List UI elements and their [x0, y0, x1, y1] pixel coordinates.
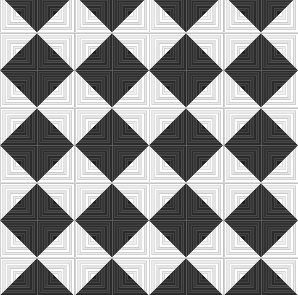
log-cabin-unit [0, 145, 37, 183]
quilt-block [224, 145, 261, 183]
log-cabin-unit [75, 70, 112, 108]
log-cabin-unit [149, 108, 186, 146]
quilt-block [37, 145, 74, 183]
log-cabin-unit [149, 183, 186, 221]
log-cabin-unit [75, 0, 112, 33]
quilt-block [261, 183, 298, 221]
log-cabin-unit [112, 258, 149, 295]
quilt-block [0, 258, 37, 295]
quilt-block [0, 145, 37, 183]
quilt-block [75, 258, 112, 295]
log-cabin-unit [112, 33, 149, 71]
quilt-block [261, 0, 298, 33]
log-cabin-unit [0, 0, 37, 33]
log-cabin-unit [186, 258, 223, 295]
log-cabin-unit [261, 145, 298, 183]
log-cabin-unit [0, 108, 37, 146]
quilt-block [37, 0, 74, 33]
quilt-block [75, 183, 112, 221]
log-cabin-unit [224, 108, 261, 146]
quilt-block [37, 183, 74, 221]
log-cabin-unit [186, 220, 223, 258]
quilt-block [112, 183, 149, 221]
quilt-block [112, 145, 149, 183]
quilt-block [224, 108, 261, 146]
log-cabin-unit [186, 183, 223, 221]
log-cabin-unit [186, 70, 223, 108]
log-cabin-unit [112, 108, 149, 146]
quilt-block [186, 220, 223, 258]
quilt-block [75, 33, 112, 71]
quilt-block [149, 33, 186, 71]
log-cabin-unit [37, 108, 74, 146]
quilt-block [261, 70, 298, 108]
quilt-block [186, 183, 223, 221]
log-cabin-unit [37, 183, 74, 221]
quilt-block [37, 70, 74, 108]
log-cabin-unit [224, 145, 261, 183]
log-cabin-unit [261, 220, 298, 258]
quilt-block [75, 108, 112, 146]
quilt-block [0, 70, 37, 108]
log-cabin-unit [261, 108, 298, 146]
log-cabin-unit [261, 33, 298, 71]
quilt-block [149, 258, 186, 295]
quilt-block [112, 33, 149, 71]
quilt-block [224, 258, 261, 295]
quilt-block [37, 220, 74, 258]
log-cabin-unit [224, 220, 261, 258]
quilt-block [37, 33, 74, 71]
quilt-block [112, 108, 149, 146]
quilt-block [0, 220, 37, 258]
quilt-block [149, 145, 186, 183]
quilt-block [261, 145, 298, 183]
quilt-block [186, 33, 223, 71]
log-cabin-unit [112, 220, 149, 258]
log-cabin-unit [224, 70, 261, 108]
quilt-block [224, 0, 261, 33]
quilt-block [75, 70, 112, 108]
log-cabin-unit [224, 0, 261, 33]
log-cabin-unit [37, 70, 74, 108]
quilt-block [112, 258, 149, 295]
log-cabin-unit [149, 258, 186, 295]
quilt-block [224, 70, 261, 108]
log-cabin-unit [186, 33, 223, 71]
quilt-block [224, 183, 261, 221]
log-cabin-unit [149, 220, 186, 258]
quilt-canvas [0, 0, 298, 295]
log-cabin-unit [261, 183, 298, 221]
log-cabin-unit [149, 33, 186, 71]
quilt-block [0, 108, 37, 146]
quilt-block-grid [0, 0, 298, 295]
quilt-block [224, 33, 261, 71]
log-cabin-unit [37, 220, 74, 258]
quilt-block [37, 258, 74, 295]
log-cabin-unit [261, 70, 298, 108]
log-cabin-unit [186, 108, 223, 146]
log-cabin-unit [75, 258, 112, 295]
log-cabin-unit [261, 258, 298, 295]
quilt-block [75, 145, 112, 183]
quilt-block [261, 220, 298, 258]
log-cabin-unit [75, 145, 112, 183]
log-cabin-unit [37, 33, 74, 71]
log-cabin-unit [261, 0, 298, 33]
quilt-block [0, 33, 37, 71]
quilt-block [75, 220, 112, 258]
log-cabin-unit [112, 70, 149, 108]
log-cabin-unit [37, 0, 74, 33]
log-cabin-unit [0, 183, 37, 221]
quilt-block [186, 108, 223, 146]
log-cabin-unit [112, 145, 149, 183]
quilt-block [186, 145, 223, 183]
quilt-block [186, 70, 223, 108]
quilt-block [37, 108, 74, 146]
quilt-block [186, 0, 223, 33]
log-cabin-unit [149, 70, 186, 108]
quilt-block [0, 0, 37, 33]
log-cabin-unit [186, 0, 223, 33]
log-cabin-unit [149, 0, 186, 33]
log-cabin-unit [224, 33, 261, 71]
quilt-block [186, 258, 223, 295]
